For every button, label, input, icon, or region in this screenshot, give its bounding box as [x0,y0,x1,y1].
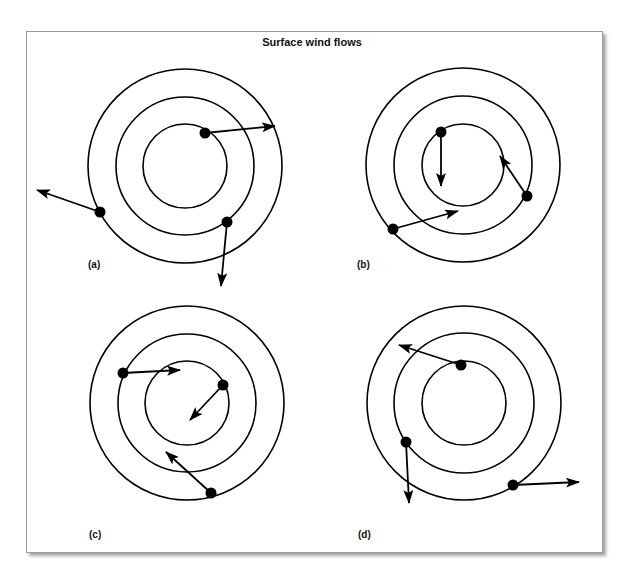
panel-label: (d) [358,529,371,540]
middle-isobar-circle [394,96,532,234]
air-parcel-dot [388,224,399,235]
air-parcel-dot [401,437,412,448]
wind-arrow-icon [123,370,180,373]
inner-isobar-circle [422,124,504,206]
wind-arrow-icon [37,190,100,212]
outer-isobar-circle [88,69,282,263]
air-parcel-dot [456,360,467,371]
wind-arrow-icon [166,452,211,493]
wind-arrow-icon [399,345,461,365]
air-parcel-dot [222,217,233,228]
wind-flow-diagram: (a)(b)(c)(d) [0,0,624,575]
panel-c: (c) [89,306,284,540]
wind-arrow-icon [205,126,275,133]
inner-isobar-circle [145,361,229,445]
air-parcel-dot [206,488,217,499]
wind-arrow-icon [513,482,579,485]
wind-arrow-icon [500,156,527,196]
inner-isobar-circle [143,124,227,208]
inner-isobar-circle [422,361,506,445]
panel-label: (c) [89,529,101,540]
panel-label: (b) [357,259,370,270]
wind-arrow-icon [190,385,223,420]
panel-b: (b) [357,68,560,270]
middle-isobar-circle [394,333,534,473]
air-parcel-dot [95,207,106,218]
wind-arrow-icon [393,211,458,229]
wind-arrow-icon [406,442,409,503]
middle-isobar-circle [118,334,256,472]
air-parcel-dot [522,191,533,202]
air-parcel-dot [118,368,129,379]
air-parcel-dot [200,128,211,139]
outer-isobar-circle [367,306,561,500]
air-parcel-dot [508,480,519,491]
air-parcel-dot [436,127,447,138]
air-parcel-dot [218,380,229,391]
panel-a: (a) [37,69,282,286]
panel-d: (d) [358,306,579,540]
middle-isobar-circle [116,97,254,235]
panel-label: (a) [88,259,100,270]
